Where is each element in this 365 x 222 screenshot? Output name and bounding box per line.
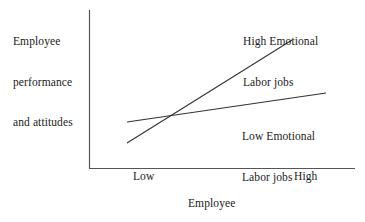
y-axis-label-line-1: Employee [13, 35, 73, 49]
series-label-high-line-1: High Emotional [243, 35, 318, 49]
y-axis-label-line-3: and attitudes [13, 116, 73, 130]
chart-figure: Employee performance and attitudes High … [0, 0, 365, 222]
series-label-low-emotional-labor: Low Emotional Labor jobs [242, 103, 315, 211]
x-tick-label-low: Low [133, 170, 154, 184]
series-label-low-line-1: Low Emotional [242, 130, 315, 144]
x-axis-label: Employee Emotional Intelligence [188, 170, 243, 222]
series-label-high-line-2: Labor jobs [243, 76, 318, 90]
x-tick-label-high: High [294, 170, 317, 184]
y-axis-label-line-2: performance [13, 76, 73, 90]
series-label-high-emotional-labor: High Emotional Labor jobs [243, 8, 318, 116]
y-axis-label: Employee performance and attitudes [13, 8, 73, 157]
x-axis-label-line-1: Employee [188, 197, 243, 211]
